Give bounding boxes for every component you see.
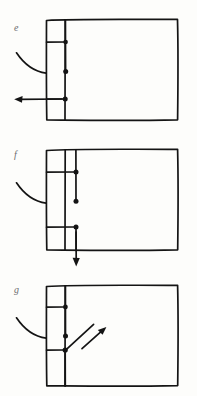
curved-leader-line: [17, 318, 47, 338]
diagonal-arrow-shaft: [82, 331, 102, 348]
panel-f: f: [0, 132, 197, 268]
upper-stem-dot: [63, 334, 68, 339]
panel-f-drawing: [0, 132, 197, 268]
curved-leader-line: [17, 183, 47, 203]
down-arrow-head: [73, 258, 80, 267]
curved-leader-line: [17, 53, 47, 73]
diagram-sheet: e f: [0, 0, 197, 396]
panel-e-drawing: [0, 0, 197, 132]
lower-bracket-dot: [63, 97, 68, 102]
upper-stem-dot: [74, 199, 79, 204]
panel-g: g: [0, 268, 197, 396]
panel-e: e: [0, 0, 197, 132]
left-arrow-head: [14, 96, 22, 103]
panel-label-e: e: [14, 22, 19, 33]
diagonal-stroke-line: [66, 324, 94, 350]
panel-g-drawing: [0, 268, 197, 396]
panel-label-f: f: [14, 149, 17, 160]
frame-outline: [46, 149, 178, 250]
upper-stem-dot: [63, 69, 68, 74]
panel-label-g: g: [14, 284, 19, 295]
